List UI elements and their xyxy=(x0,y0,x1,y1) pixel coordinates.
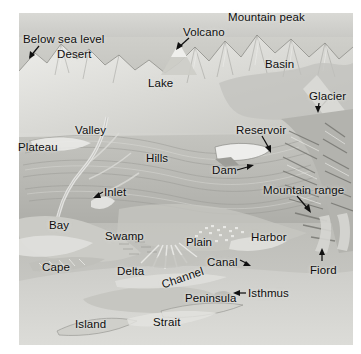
arrow-dam xyxy=(237,164,254,170)
arrow-canal xyxy=(240,260,251,266)
arrow-below-sea-level xyxy=(29,46,39,59)
arrow-volcano xyxy=(176,38,189,50)
arrow-mountain-range xyxy=(297,196,311,213)
arrow-isthmus xyxy=(233,290,246,296)
terrain-diagram-figure: Below sea level Desert Mountain peak Vol… xyxy=(0,0,361,354)
arrow-glacier xyxy=(315,103,321,113)
arrow-fiord xyxy=(319,248,325,261)
leader-arrows-layer xyxy=(0,0,361,354)
arrow-reservoir xyxy=(262,136,271,153)
arrow-inlet xyxy=(93,192,103,198)
